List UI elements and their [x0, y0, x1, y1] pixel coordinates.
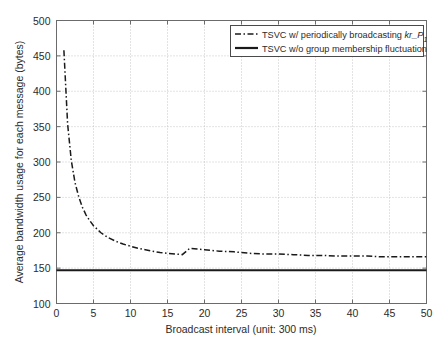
- y-tick-label: 150: [33, 262, 51, 274]
- y-tick-label: 400: [33, 85, 51, 97]
- x-tick-label: 50: [421, 307, 433, 319]
- y-tick-label: 200: [33, 227, 51, 239]
- bandwidth-line-chart: 05101520253035404550 1001502002503003504…: [0, 0, 447, 357]
- x-tick-label: 25: [236, 307, 248, 319]
- legend-label-tsvc-no-fluctuation: TSVC w/o group membership fluctuation: [262, 44, 427, 54]
- x-tick-label: 30: [273, 307, 285, 319]
- chart-legend: TSVC w/ periodically broadcasting kr_P1 …: [231, 26, 428, 57]
- x-tick-label: 15: [162, 307, 174, 319]
- x-tick-label: 10: [125, 307, 137, 319]
- y-tick-label: 350: [33, 121, 51, 133]
- figure-container: 05101520253035404550 1001502002503003504…: [0, 0, 447, 357]
- x-tick-label: 35: [310, 307, 322, 319]
- y-axis-title: Average bandwidth usage for each message…: [13, 41, 25, 284]
- y-axis-tick-labels: 100150200250300350400450500: [33, 15, 51, 310]
- x-tick-label: 20: [199, 307, 211, 319]
- x-axis-title: Broadcast interval (unit: 300 ms): [165, 323, 316, 335]
- x-tick-label: 45: [384, 307, 396, 319]
- y-tick-label: 450: [33, 50, 51, 62]
- x-tick-label: 40: [347, 307, 359, 319]
- y-tick-label: 100: [33, 298, 51, 310]
- x-tick-label: 5: [91, 307, 97, 319]
- y-tick-label: 500: [33, 15, 51, 27]
- x-tick-label: 0: [54, 307, 60, 319]
- y-tick-label: 250: [33, 191, 51, 203]
- y-tick-label: 300: [33, 156, 51, 168]
